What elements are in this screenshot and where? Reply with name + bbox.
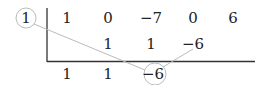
product: −6 — [178, 35, 208, 53]
result: −6 — [138, 65, 168, 83]
coefficient: 0 — [93, 9, 123, 27]
coefficient: 6 — [218, 9, 248, 27]
divisor-connector-line — [34, 24, 145, 70]
product: 1 — [136, 35, 166, 53]
coefficient: 1 — [52, 9, 82, 27]
divisor: 1 — [11, 9, 41, 27]
coefficient: 0 — [178, 9, 208, 27]
product: 1 — [93, 35, 123, 53]
result: 1 — [93, 65, 123, 83]
result: 1 — [52, 65, 82, 83]
coefficient: −7 — [136, 9, 166, 27]
